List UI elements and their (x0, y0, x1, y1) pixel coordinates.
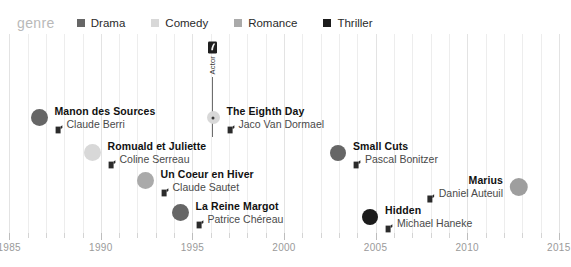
gridline (9, 34, 10, 237)
point-label: Small CutsPascal Bonitzer (353, 140, 438, 166)
point-label: La Reine MargotPatrice Chéreau (196, 200, 284, 226)
point-marker[interactable] (510, 178, 528, 196)
axis-tick-minor (449, 233, 450, 238)
legend-item-thriller[interactable]: Thriller (323, 17, 372, 29)
legend-item-comedy[interactable]: Comedy (151, 17, 208, 29)
axis-tick-minor (522, 233, 523, 238)
axis-tick-major (284, 233, 285, 240)
data-point[interactable]: Un Coeur en HiverClaude Sautet (137, 168, 254, 194)
point-marker[interactable] (330, 145, 346, 161)
axis-tick-minor (431, 233, 432, 238)
director-name: Pascal Bonitzer (365, 153, 438, 165)
data-point[interactable]: Manon des SourcesClaude Berri (31, 105, 156, 131)
legend-item-list: DramaComedyRomanceThriller (77, 17, 399, 29)
legend-item-label: Thriller (337, 17, 372, 29)
axis-tick-minor (229, 233, 230, 238)
axis-tick-major (9, 233, 10, 240)
film-title: La Reine Margot (196, 200, 279, 212)
data-point[interactable]: Small CutsPascal Bonitzer (330, 140, 438, 166)
director-row: Jaco Van Dormael (227, 118, 325, 130)
legend-title: genre (17, 15, 55, 31)
x-axis: 1985199019952000200520102015 (0, 233, 568, 267)
legend-item-drama[interactable]: Drama (77, 17, 126, 29)
gridline (156, 34, 157, 237)
director-row: Pascal Bonitzer (353, 153, 438, 165)
film-title: Hidden (385, 204, 421, 216)
axis-tick-label: 1990 (89, 242, 112, 253)
legend-swatch-drama (77, 19, 85, 27)
director-icon (353, 155, 361, 164)
gridline (28, 34, 29, 237)
data-point[interactable]: Romuald et JulietteColine Serreau (84, 140, 207, 166)
data-point[interactable]: HiddenMichael Haneke (362, 204, 472, 230)
director-row: Daniel Auteuil (427, 187, 503, 199)
axis-tick-minor (357, 233, 358, 238)
director-row: Patrice Chéreau (196, 213, 284, 225)
point-marker[interactable] (84, 144, 101, 161)
director-row: Coline Serreau (108, 153, 190, 165)
gridline (137, 34, 138, 237)
director-name: Daniel Auteuil (439, 187, 503, 199)
axis-tick-label: 2010 (455, 242, 478, 253)
axis-tick-minor (412, 233, 413, 238)
director-row: Claude Sautet (161, 181, 240, 193)
axis-tick-minor (247, 233, 248, 238)
gridline (541, 34, 542, 237)
gridline (486, 34, 487, 237)
axis-tick-major (559, 233, 560, 240)
gridlines (0, 34, 568, 237)
gridline (321, 34, 322, 237)
director-icon (55, 120, 63, 129)
director-name: Michael Haneke (397, 217, 472, 229)
axis-tick-minor (266, 233, 267, 238)
director-icon (385, 219, 393, 228)
axis-tick-minor (394, 233, 395, 238)
point-marker[interactable] (172, 204, 189, 221)
axis-tick-major (467, 233, 468, 240)
point-marker[interactable] (137, 172, 154, 189)
gridline (284, 34, 285, 237)
gridline (119, 34, 120, 237)
point-marker[interactable] (31, 109, 48, 126)
point-marker-center-dot (212, 116, 215, 119)
axis-tick-minor (119, 233, 120, 238)
axis-tick-minor (486, 233, 487, 238)
data-point[interactable]: La Reine MargotPatrice Chéreau (172, 200, 284, 226)
axis-tick-minor (83, 233, 84, 238)
point-label: MariusDaniel Auteuil (427, 174, 503, 200)
director-name: Patrice Chéreau (208, 213, 284, 225)
legend-item-romance[interactable]: Romance (234, 17, 297, 29)
point-label: HiddenMichael Haneke (385, 204, 472, 230)
point-label: Manon des SourcesClaude Berri (55, 105, 156, 131)
film-title: Romuald et Juliette (108, 140, 207, 152)
director-icon (196, 215, 204, 224)
director-icon (108, 155, 116, 164)
axis-tick-label: 2015 (547, 242, 570, 253)
axis-tick-minor (541, 233, 542, 238)
point-marker[interactable] (207, 111, 220, 124)
film-title: Manon des Sources (55, 105, 156, 117)
director-icon (161, 183, 169, 192)
axis-tick-minor (174, 233, 175, 238)
point-label: Un Coeur en HiverClaude Sautet (161, 168, 254, 194)
axis-tick-minor (211, 233, 212, 238)
axis-tick-major (192, 233, 193, 240)
data-point[interactable]: The Eighth DayJaco Van Dormael (207, 105, 325, 131)
data-point[interactable]: MariusDaniel Auteuil (427, 174, 528, 200)
axis-tick-label: 2000 (272, 242, 295, 253)
legend-item-label: Comedy (165, 17, 208, 29)
legend-swatch-thriller (323, 19, 331, 27)
film-title: The Eighth Day (227, 105, 305, 117)
point-marker[interactable] (362, 209, 378, 225)
director-name: Claude Berri (67, 118, 125, 130)
gridline (46, 34, 47, 237)
axis-tick-label: 1985 (0, 242, 21, 253)
actor-callout-label: Actor (209, 56, 217, 75)
axis-tick-minor (137, 233, 138, 238)
gridline (339, 34, 340, 237)
director-row: Claude Berri (55, 118, 125, 130)
director-icon (227, 120, 235, 129)
point-label: Romuald et JulietteColine Serreau (108, 140, 207, 166)
gridline (64, 34, 65, 237)
